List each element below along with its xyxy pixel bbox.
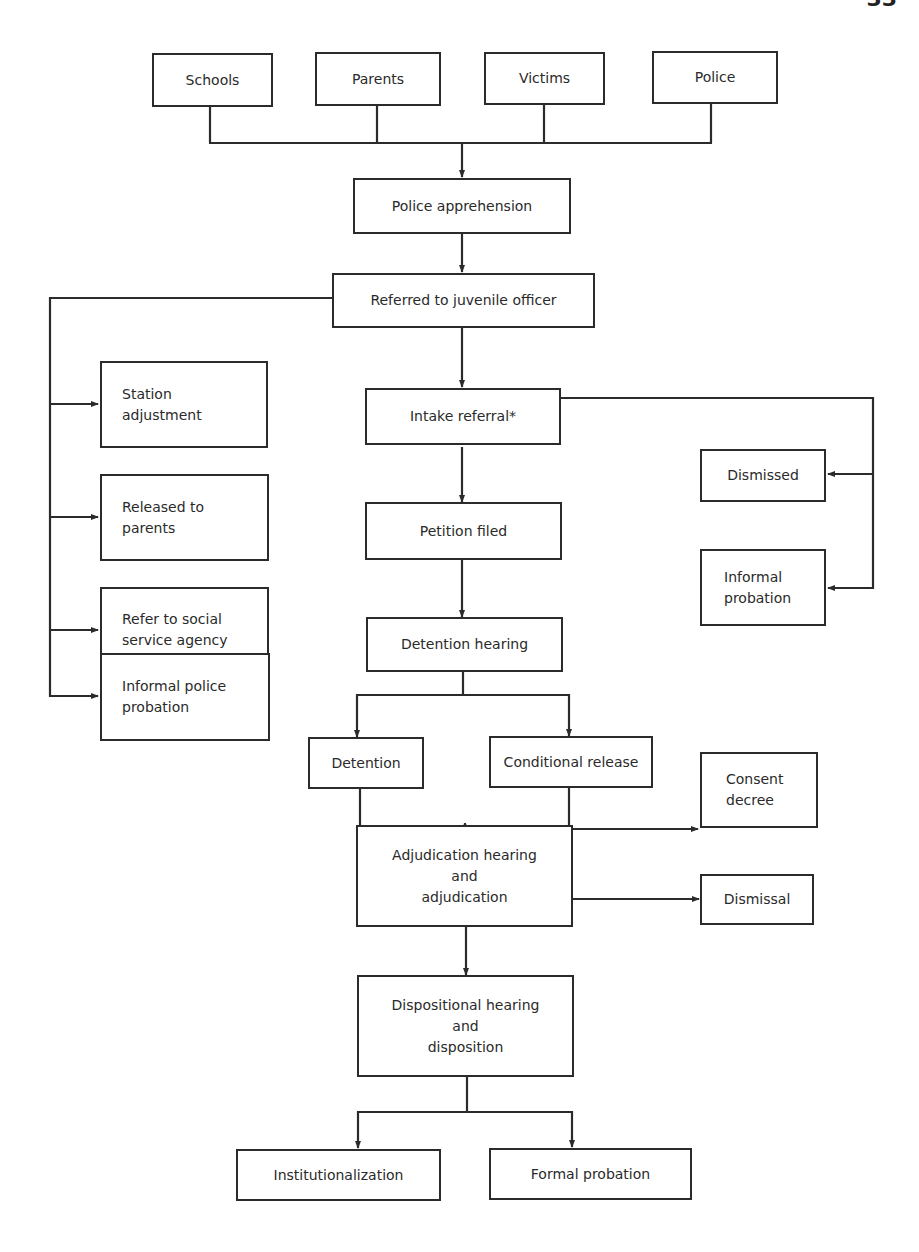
node-released-to-parents: Released to parents bbox=[100, 474, 269, 561]
node-referred-juvenile-officer: Referred to juvenile officer bbox=[332, 273, 595, 328]
node-informal-probation: Informal probation bbox=[700, 549, 826, 626]
node-victims: Victims bbox=[484, 52, 605, 105]
node-formal-probation: Formal probation bbox=[489, 1148, 692, 1200]
node-intake-referral: Intake referral* bbox=[365, 388, 561, 445]
node-label: Institutionalization bbox=[274, 1165, 404, 1186]
node-dismissed: Dismissed bbox=[700, 449, 826, 502]
node-label: Dispositional hearing and disposition bbox=[392, 995, 540, 1058]
node-petition-filed: Petition filed bbox=[365, 502, 562, 560]
node-parents: Parents bbox=[315, 52, 441, 106]
node-label: Parents bbox=[352, 69, 404, 90]
node-label: Schools bbox=[186, 70, 240, 91]
node-label: Informal probation bbox=[724, 567, 791, 609]
node-conditional-release: Conditional release bbox=[489, 736, 653, 788]
node-adjudication: Adjudication hearing and adjudication bbox=[356, 825, 573, 927]
node-label: Intake referral* bbox=[410, 406, 516, 427]
node-label: Station adjustment bbox=[122, 384, 202, 426]
node-consent-decree: Consent decree bbox=[700, 752, 818, 828]
node-label: Victims bbox=[519, 68, 570, 89]
node-label: Consent decree bbox=[726, 769, 783, 811]
node-label: Referred to juvenile officer bbox=[370, 290, 556, 311]
node-label: Informal police probation bbox=[122, 676, 226, 718]
node-police: Police bbox=[652, 51, 778, 104]
node-label: Dismissed bbox=[727, 465, 799, 486]
node-schools: Schools bbox=[152, 53, 273, 107]
node-label: Police bbox=[695, 67, 736, 88]
node-label: Detention bbox=[331, 753, 400, 774]
node-label: Police apprehension bbox=[392, 196, 532, 217]
node-label: Refer to social service agency bbox=[122, 609, 228, 651]
node-label: Released to parents bbox=[122, 497, 204, 539]
node-detention: Detention bbox=[308, 737, 424, 789]
node-dismissal: Dismissal bbox=[700, 874, 814, 925]
node-label: Detention hearing bbox=[401, 634, 528, 655]
node-station-adjustment: Station adjustment bbox=[100, 361, 268, 448]
node-label: Conditional release bbox=[504, 752, 639, 773]
node-label: Formal probation bbox=[531, 1164, 650, 1185]
node-label: Adjudication hearing and adjudication bbox=[392, 845, 537, 908]
node-dispositional: Dispositional hearing and disposition bbox=[357, 975, 574, 1077]
node-detention-hearing: Detention hearing bbox=[366, 617, 563, 672]
node-informal-police-probation: Informal police probation bbox=[100, 653, 270, 741]
node-police-apprehension: Police apprehension bbox=[353, 178, 571, 234]
node-institutionalization: Institutionalization bbox=[236, 1149, 441, 1201]
node-label: Dismissal bbox=[724, 889, 791, 910]
node-label: Petition filed bbox=[420, 521, 507, 542]
